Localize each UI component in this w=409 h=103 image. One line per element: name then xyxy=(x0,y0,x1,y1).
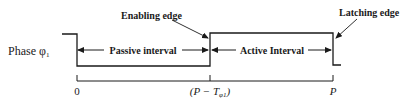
passive-interval-label: Passive interval xyxy=(110,45,177,56)
signal-label: Phase φ1 xyxy=(8,44,50,59)
clock-phase-diagram: Phase φ1 Enabling edge Latching edge Pas… xyxy=(0,0,409,103)
active-interval-label: Active Interval xyxy=(240,45,304,56)
enabling-edge-label: Enabling edge xyxy=(121,10,182,21)
axis-label-p-minus-t: (P − Tφ1) xyxy=(190,85,231,99)
axis-label-p: P xyxy=(329,85,337,97)
latching-edge-label: Latching edge xyxy=(339,7,400,18)
latching-edge-pointer xyxy=(336,19,357,38)
enabling-edge-pointer xyxy=(172,20,208,38)
time-axis xyxy=(77,75,333,81)
diagram-canvas: Phase φ1 Enabling edge Latching edge Pas… xyxy=(0,0,409,103)
axis-label-0: 0 xyxy=(74,85,80,97)
